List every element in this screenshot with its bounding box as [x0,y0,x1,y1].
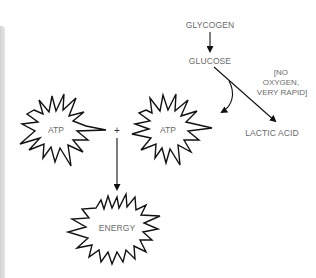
atp-left-label: ATP [48,125,64,135]
atp-right-label: ATP [160,125,176,135]
glucose-label: GLUCOSE [189,56,231,66]
condition-line-1: [NO [274,68,288,77]
energy-label: ENERGY [99,223,136,233]
lactic-acid-label: LACTIC ACID [245,128,299,138]
glycogen-label: GLYCOGEN [186,20,234,30]
condition-note: [NO OXYGEN, VERY RAPID] [257,68,307,97]
plus-sign: + [114,125,120,136]
condition-line-2: OXYGEN, [263,78,299,87]
atp-energy-diagram: GLYCOGEN GLUCOSE [NO OXYGEN, VERY RAPID]… [0,0,316,278]
condition-line-3: VERY RAPID] [257,88,307,97]
glucose-to-atp-curved-arrow [222,81,233,112]
